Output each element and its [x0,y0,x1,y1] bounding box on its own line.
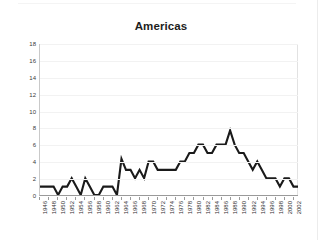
y-tick-label: 18 [22,41,36,47]
y-tick-label: 0 [22,193,36,199]
x-tick-mark [103,197,104,200]
x-tick-mark [130,197,131,200]
x-tick-mark [94,197,95,200]
x-tick-label: 1968 [141,201,147,214]
gridline [40,95,298,96]
x-tick-label: 1980 [196,201,202,214]
x-tick-mark [193,197,194,200]
scan-artifact-top [18,3,296,4]
x-tick-label: 1970 [151,201,157,214]
y-tick-label: 6 [22,142,36,148]
x-tick-mark [266,197,267,200]
x-tick-label: 1996 [269,201,275,214]
x-tick-label: 1960 [105,201,111,214]
series-line-americas [40,44,298,195]
gridline [40,128,298,129]
chart-page: Americas 024681012141618 194619481950195… [0,0,322,240]
x-tick-mark [257,197,258,200]
x-tick-label: 1986 [223,201,229,214]
scan-artifact-right [317,0,318,240]
chart-plot-wrapper: 024681012141618 194619481950195219541956… [22,44,298,202]
x-axis: 1946194819501952195419561958196019621964… [39,197,298,240]
y-tick-label: 14 [22,75,36,81]
gridline [40,112,298,113]
x-tick-label: 1958 [96,201,102,214]
x-tick-mark [239,197,240,200]
x-tick-label: 1982 [205,201,211,214]
gridline [40,44,298,45]
x-tick-mark [39,197,40,200]
y-tick-label: 2 [22,176,36,182]
x-tick-mark [84,197,85,200]
x-tick-mark [221,197,222,200]
x-tick-label: 1988 [232,201,238,214]
x-tick-mark [57,197,58,200]
x-tick-mark [48,197,49,200]
y-tick-label: 12 [22,92,36,98]
gridline [40,61,298,62]
x-tick-label: 1952 [69,201,75,214]
x-tick-label: 1994 [260,201,266,214]
x-tick-mark [175,197,176,200]
x-tick-label: 1974 [169,201,175,214]
x-tick-mark [66,197,67,200]
x-tick-mark [139,197,140,200]
x-tick-label: 1962 [114,201,120,214]
x-tick-mark [166,197,167,200]
x-tick-label: 2002 [296,201,302,214]
x-tick-label: 1956 [87,201,93,214]
x-tick-mark [284,197,285,200]
x-tick-label: 1966 [132,201,138,214]
x-tick-label: 1984 [214,201,220,214]
x-tick-label: 1992 [251,201,257,214]
x-tick-label: 1950 [60,201,66,214]
x-tick-mark [248,197,249,200]
y-axis: 024681012141618 [22,44,36,196]
x-tick-mark [148,197,149,200]
gridline [40,179,298,180]
gridline [40,78,298,79]
y-tick-label: 8 [22,125,36,131]
x-tick-mark [121,197,122,200]
x-tick-label: 1976 [178,201,184,214]
x-tick-mark [157,197,158,200]
x-tick-label: 1954 [78,201,84,214]
y-tick-label: 16 [22,58,36,64]
plot-area [39,44,298,196]
x-tick-mark [184,197,185,200]
x-tick-label: 2000 [287,201,293,214]
x-tick-label: 1964 [123,201,129,214]
x-tick-mark [203,197,204,200]
x-tick-mark [275,197,276,200]
chart-title: Americas [0,20,322,32]
x-tick-label: 1972 [160,201,166,214]
y-tick-label: 4 [22,159,36,165]
x-tick-label: 1990 [241,201,247,214]
x-tick-mark [112,197,113,200]
y-tick-label: 10 [22,109,36,115]
x-tick-label: 1998 [278,201,284,214]
gridline [40,145,298,146]
x-tick-mark [230,197,231,200]
x-tick-mark [293,197,294,200]
x-tick-label: 1948 [51,201,57,214]
x-tick-mark [212,197,213,200]
x-tick-label: 1978 [187,201,193,214]
gridline [40,162,298,163]
x-tick-mark [75,197,76,200]
x-tick-label: 1946 [42,201,48,214]
